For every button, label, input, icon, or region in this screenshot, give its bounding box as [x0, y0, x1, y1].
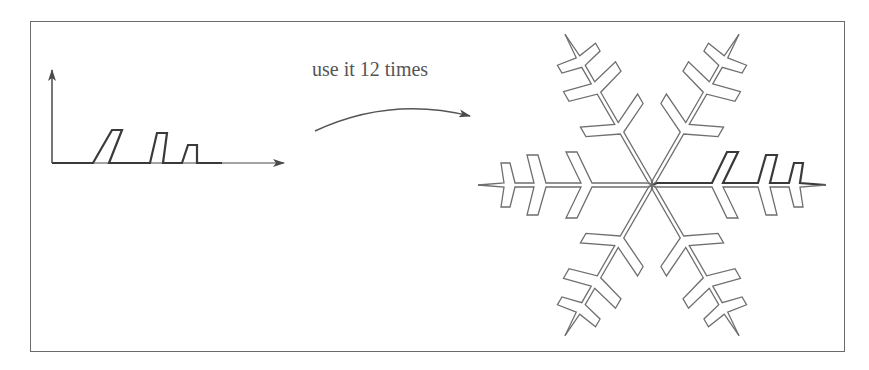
snowflake-generator-copy: [536, 34, 652, 201]
snowflake-generator-copy: [623, 18, 739, 185]
generator-diagram: [52, 70, 284, 163]
snowflake-generator-copy: [536, 169, 652, 336]
snowflake-generator-copy: [623, 185, 739, 352]
caption-text: use it 12 times: [312, 58, 428, 81]
generator-curve: [52, 130, 222, 163]
snowflake-generator-copy: [652, 185, 826, 218]
snowflake-generator-copy: [478, 185, 652, 218]
snowflake-generator-copy: [652, 34, 768, 201]
figure-canvas: [0, 0, 869, 370]
snowflake-generator-copy: [652, 152, 826, 185]
curved-arrow: [315, 109, 470, 131]
snowflake-generator-copy: [478, 152, 652, 185]
snowflake-generator-copy: [565, 185, 681, 352]
snowflake-generator-copy: [565, 18, 681, 185]
snowflake-generator-copy: [652, 169, 768, 336]
snowflake: [478, 18, 826, 352]
